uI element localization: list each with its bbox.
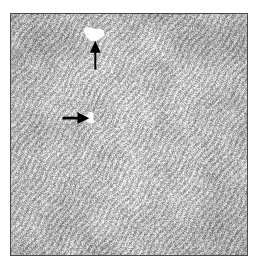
- microstructure-micrograph: [10, 13, 248, 256]
- micrograph-image: [11, 14, 247, 255]
- figure-root: [0, 0, 258, 266]
